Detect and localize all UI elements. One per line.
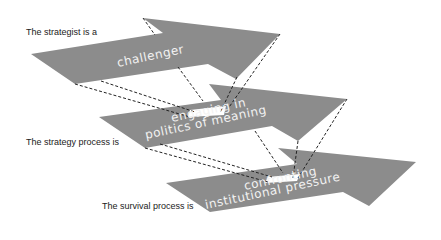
label-survival-process: The survival process is [102, 201, 194, 211]
dashed-line [255, 131, 283, 173]
label-strategist: The strategist is a [26, 27, 97, 37]
label-strategy-process: The strategy process is [26, 137, 119, 147]
dashed-line [178, 67, 203, 101]
